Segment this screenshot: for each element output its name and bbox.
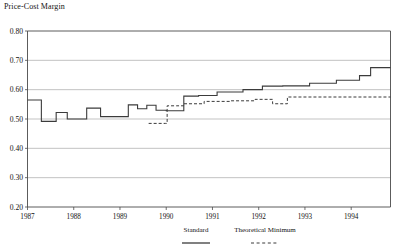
y-tick-label: 0.70 <box>10 56 23 65</box>
y-axis-tick-labels: 0.200.300.400.500.600.700.80 <box>10 27 23 212</box>
chart-legend: StandardTheoretical Minimum <box>182 226 296 243</box>
x-tick-label: 1992 <box>252 213 267 221</box>
y-tick-label: 0.80 <box>10 27 23 36</box>
data-series <box>28 68 391 124</box>
x-tick-label: 1987 <box>20 213 35 221</box>
series-line-standard <box>28 68 391 122</box>
y-tick-label: 0.40 <box>10 144 23 153</box>
x-tick-label: 1994 <box>344 213 359 221</box>
x-tick-label: 1988 <box>67 213 82 221</box>
y-tick-label: 0.20 <box>10 203 23 212</box>
legend-label-1: Theoretical Minimum <box>234 226 296 234</box>
y-tick-label: 0.50 <box>10 115 23 124</box>
x-tick-label: 1993 <box>298 213 313 221</box>
y-tick-label: 0.30 <box>10 173 23 182</box>
y-tick-label: 0.60 <box>10 85 23 94</box>
x-tick-label: 1989 <box>113 213 128 221</box>
x-axis-tick-labels: 19871988198919901991199219931994 <box>20 213 358 221</box>
x-tick-label: 1990 <box>159 213 174 221</box>
series-line-theoretical-minimum <box>149 97 391 123</box>
x-tick-label: 1991 <box>205 213 220 221</box>
price-cost-margin-chart: 0.200.300.400.500.600.700.80 19871988198… <box>0 0 402 250</box>
legend-label-0: Standard <box>184 226 209 234</box>
chart-figure: Price-Cost Margin 0.200.300.400.500.600.… <box>0 0 402 250</box>
